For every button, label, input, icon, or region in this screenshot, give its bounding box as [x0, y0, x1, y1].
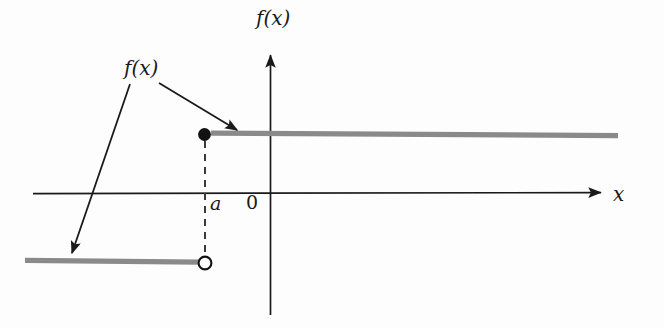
closed-endpoint-marker	[198, 128, 211, 141]
function-graph-figure: f(x) f(x) x a 0	[0, 0, 664, 328]
open-endpoint-marker	[199, 257, 212, 270]
point-a-label: a	[210, 194, 221, 213]
graph-canvas	[0, 0, 664, 328]
annotation-arrow-to-upper-branch	[159, 83, 237, 130]
x-axis-label: x	[613, 184, 624, 204]
origin-label: 0	[246, 193, 258, 212]
annotation-arrow-to-lower-branch	[72, 84, 130, 253]
upper-branch-segment	[211, 133, 618, 135]
y-axis-label: f(x)	[256, 8, 290, 28]
lower-branch-segment	[25, 260, 200, 262]
function-annotation-label: f(x)	[124, 58, 158, 78]
x-axis-line	[33, 193, 601, 194]
